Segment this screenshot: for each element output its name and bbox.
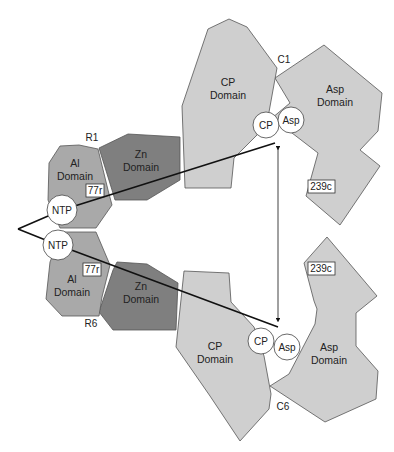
top-subunit: Al Domain Zn Domain CP Domain Asp Domain… — [48, 19, 382, 228]
r6-label: R6 — [85, 318, 98, 329]
asp-domain-bottom-label-2: Domain — [311, 354, 347, 366]
asp-domain-top-label-2: Domain — [317, 96, 353, 108]
zn-domain-bottom-label-2: Domain — [123, 293, 159, 305]
asp-site-bottom-label: Asp — [278, 342, 296, 353]
cp-domain-top-label-1: CP — [221, 76, 236, 88]
asp-site-top-label: Asp — [282, 115, 300, 126]
al-domain-bottom-label-1: Al — [67, 273, 76, 285]
asp-domain-top-label-1: Asp — [326, 83, 344, 95]
zn-domain-bottom-label-1: Zn — [135, 280, 147, 292]
cp-domain-top-label-2: Domain — [210, 89, 246, 101]
residue-77r-top: 77r — [88, 185, 103, 196]
cp-site-top-label: CP — [259, 120, 273, 131]
atcase-domain-diagram: Al Domain Zn Domain CP Domain Asp Domain… — [0, 0, 394, 452]
ntp-site-top-label: NTP — [52, 205, 72, 216]
asp-domain-bottom-label-1: Asp — [320, 341, 338, 353]
ntp-site-bottom-label: NTP — [48, 240, 68, 251]
residue-239c-top: 239c — [310, 181, 332, 192]
zn-domain-top-label-1: Zn — [135, 148, 147, 160]
cp-domain-bottom-label-2: Domain — [197, 353, 233, 365]
al-domain-bottom-label-2: Domain — [54, 286, 90, 298]
al-domain-top-label-2: Domain — [57, 170, 93, 182]
al-domain-top-label-1: Al — [70, 157, 79, 169]
cp-domain-bottom-label-1: CP — [208, 340, 223, 352]
cp-site-bottom-label: CP — [254, 336, 268, 347]
zn-domain-top-label-2: Domain — [123, 161, 159, 173]
r1-label: R1 — [86, 132, 99, 143]
c1-label: C1 — [278, 54, 291, 65]
cp-domain-top — [182, 19, 277, 188]
asp-domain-top — [272, 45, 382, 225]
bottom-subunit: Al Domain Zn Domain CP Domain Asp Domain… — [46, 232, 378, 441]
residue-77r-bottom: 77r — [85, 264, 100, 275]
residue-239c-bottom: 239c — [310, 263, 332, 274]
c6-label: C6 — [277, 401, 290, 412]
